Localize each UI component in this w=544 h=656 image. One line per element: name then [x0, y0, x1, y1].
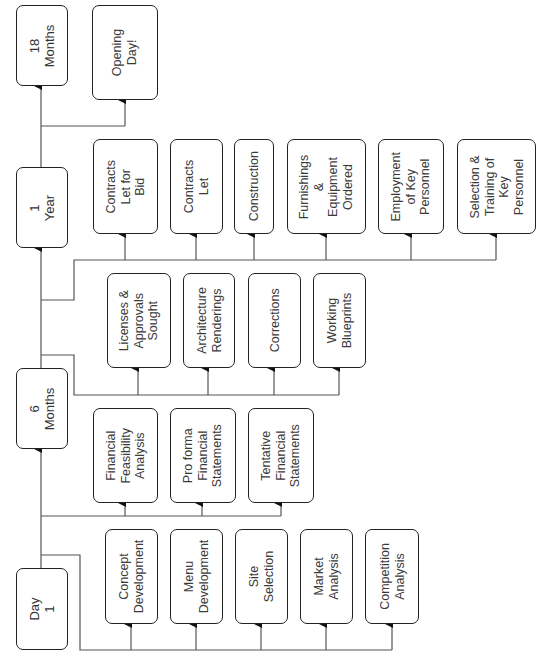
task-label: Selection & Training of Key Personnel [467, 155, 525, 218]
milestone-6-months: 6 Months [16, 368, 68, 449]
task-selection-training-key-personnel: Selection & Training of Key Personnel [457, 139, 536, 234]
task-label: Menu Development [182, 540, 211, 614]
task-working-blueprints: Working Blueprints [313, 273, 366, 368]
task-employment-of-key-personnel: Employment of Key Personnel [378, 139, 444, 234]
task-contracts-let-for-bid: Contracts Let for Bid [93, 139, 158, 234]
task-label: Corrections [267, 289, 282, 353]
task-market-analysis: Market Analysis [300, 529, 353, 624]
task-pro-forma-financial-statements: Pro forma Financial Statements [170, 408, 236, 503]
task-label: Contracts Let for Bid [104, 160, 148, 214]
milestone-label: 1 Year [27, 194, 57, 220]
task-licenses-approvals-sought: Licenses & Approvals Sought [107, 273, 171, 368]
task-architecture-renderings: Architecture Renderings [183, 273, 235, 368]
task-label: Competition Analysis [378, 543, 407, 610]
task-label: Furnishings & Equipment Ordered [298, 154, 356, 219]
task-label: Pro forma Financial Statements [181, 424, 225, 487]
task-competition-analysis: Competition Analysis [365, 529, 419, 624]
task-concept-development: Concept Development [105, 529, 158, 624]
task-opening-day: Opening Day! [92, 5, 158, 100]
task-label: Architecture Renderings [195, 287, 224, 354]
task-label: Financial Feasibility Analysis [104, 428, 148, 484]
milestone-1-year: 1 Year [16, 167, 68, 248]
task-label: Employment of Key Personnel [389, 152, 433, 221]
task-label: Site Selection [247, 551, 276, 602]
milestone-18-months: 18 Months [16, 5, 68, 86]
milestone-label: Day 1 [27, 597, 57, 620]
task-menu-development: Menu Development [170, 529, 223, 624]
task-label: Contracts Let [182, 160, 211, 214]
task-tentative-financial-statements: Tentative Financial Statements [248, 408, 314, 503]
task-label: Working Blueprints [325, 293, 354, 349]
task-label: Licenses & Approvals Sought [117, 290, 161, 351]
task-contracts-let: Contracts Let [170, 139, 223, 234]
task-financial-feasibility-analysis: Financial Feasibility Analysis [93, 408, 158, 503]
task-label: Construction [247, 151, 262, 221]
milestone-label: 6 Months [27, 387, 57, 430]
milestone-day-1: Day 1 [16, 568, 68, 650]
task-corrections: Corrections [248, 273, 301, 368]
task-label: Concept Development [117, 540, 146, 614]
task-label: Tentative Financial Statements [259, 424, 303, 487]
milestone-label: 18 Months [27, 24, 57, 67]
task-site-selection: Site Selection [235, 529, 288, 624]
task-furnishings-equipment-ordered: Furnishings & Equipment Ordered [287, 139, 366, 234]
task-construction: Construction [234, 139, 274, 234]
task-label: Market Analysis [312, 553, 341, 600]
restaurant-development-timeline-diagram: Day 1 6 Months 1 Year 18 Months Concept … [0, 0, 544, 656]
task-label: Opening Day! [110, 29, 139, 76]
